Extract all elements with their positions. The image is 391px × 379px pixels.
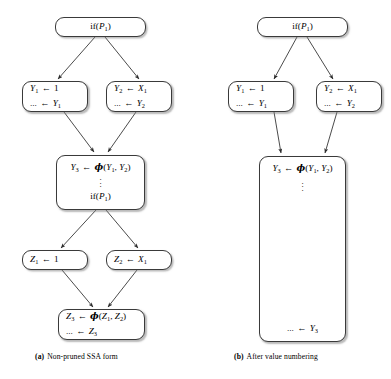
node-a-z3-line-0: Z3 ← ϕ(Z1, Z2) xyxy=(66,310,126,325)
edge-if-to-y1 xyxy=(58,37,95,79)
node-a-y1-line-0: Y1 ← 1 xyxy=(30,82,59,97)
node-a-if-top-line-0: if(P1) xyxy=(90,20,111,35)
node-a-z3-line-1: ... ← Z3 xyxy=(66,325,97,340)
edge-y3-to-z1 xyxy=(61,210,96,248)
node-a-if-top[interactable]: if(P1) xyxy=(55,17,146,37)
node-a-z1[interactable]: Z1 ← 1 xyxy=(22,250,88,270)
node-b-y1-line-0: Y1 ← 1 xyxy=(236,82,265,97)
node-a-y1-line-1: ... ← Y1 xyxy=(30,97,61,112)
node-a-z2[interactable]: Z2 ← X1 xyxy=(106,250,172,270)
node-b-y2-line-1: ... ← Y2 xyxy=(324,97,355,112)
node-b-y1-line-1: ... ← Y1 xyxy=(236,97,267,112)
edge-y2-to-y3 xyxy=(108,112,136,152)
node-a-y2-line-0: Y2 ← X1 xyxy=(114,82,147,97)
node-b-y3-line-2: ... ← Y3 xyxy=(260,322,345,337)
caption-panel-a: (a)Non-pruned SSA form xyxy=(35,352,118,361)
node-a-y3-vdots: ... xyxy=(99,176,101,187)
node-b-y3-vdots: ... xyxy=(260,180,345,191)
node-b-if-top-line-0: if(P1) xyxy=(292,20,313,35)
node-a-y1[interactable]: Y1 ← 1 ... ← Y1 xyxy=(22,81,88,112)
edge-y3-to-z2 xyxy=(106,210,138,248)
edge-y1-to-y3 xyxy=(64,112,94,152)
edge-b-y1-to-y3 xyxy=(274,112,281,153)
node-b-y3-top: Y3 ← ϕ(Y1, Y2) ... xyxy=(260,162,345,190)
edge-if-to-y2 xyxy=(105,37,139,79)
edge-b-y2-to-y3 xyxy=(325,112,337,153)
node-a-z1-line-0: Z1 ← 1 xyxy=(30,253,59,268)
node-a-y3[interactable]: Y3 ← ϕ(Y1, Y2) ... if(P1) xyxy=(56,155,145,210)
node-a-y2[interactable]: Y2 ← X1 ... ← Y2 xyxy=(106,81,172,112)
node-b-y1[interactable]: Y1 ← 1 ... ← Y1 xyxy=(228,81,294,112)
node-a-z2-line-0: Z2 ← X1 xyxy=(114,253,147,268)
caption-b-text: After value numbering xyxy=(247,352,318,361)
node-b-if-top[interactable]: if(P1) xyxy=(257,17,348,37)
edge-b-if-to-y1 xyxy=(274,37,297,79)
node-b-y3-bottom: ... ← Y3 xyxy=(260,322,345,337)
caption-a-text: Non-pruned SSA form xyxy=(47,352,118,361)
node-b-y3-line-0: Y3 ← ϕ(Y1, Y2) xyxy=(260,162,345,177)
edge-z2-to-z3 xyxy=(108,270,137,307)
ssa-figure: if(P1) Y1 ← 1 ... ← Y1 Y2 ← X1 ... ← Y2 … xyxy=(0,0,391,379)
node-a-y2-line-1: ... ← Y2 xyxy=(114,97,145,112)
node-b-y2-line-0: Y2 ← X1 xyxy=(324,82,357,97)
node-a-z3[interactable]: Z3 ← ϕ(Z1, Z2) ... ← Z3 xyxy=(58,309,145,340)
node-a-y3-line-2: if(P1) xyxy=(90,190,111,205)
caption-a-label: (a) xyxy=(35,352,44,361)
node-b-y2[interactable]: Y2 ← X1 ... ← Y2 xyxy=(316,81,382,112)
caption-b-label: (b) xyxy=(234,352,244,361)
edge-z1-to-z3 xyxy=(62,270,93,307)
node-b-y3[interactable]: Y3 ← ϕ(Y1, Y2) ... ... ← Y3 xyxy=(259,156,346,342)
edge-b-if-to-y2 xyxy=(307,37,333,79)
caption-panel-b: (b)After value numbering xyxy=(234,352,318,361)
